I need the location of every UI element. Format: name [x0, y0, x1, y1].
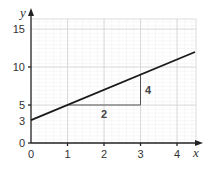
slope-chart: 0 1 2 3 4 0 3 5 10 15 y x 2 4: [0, 0, 208, 177]
x-tick-1: 1: [64, 148, 70, 160]
y-tick-10: 10: [13, 61, 25, 73]
run-label: 2: [101, 108, 107, 120]
x-tick-0: 0: [28, 148, 34, 160]
x-tick-labels: 0 1 2 3 4: [28, 148, 180, 160]
y-axis-label: y: [18, 5, 26, 20]
x-tick-4: 4: [174, 148, 180, 160]
y-tick-labels: 0 3 5 10 15: [13, 23, 25, 149]
grid: [31, 19, 196, 143]
x-tick-3: 3: [137, 148, 143, 160]
x-axis-label: x: [192, 145, 199, 160]
rise-label: 4: [145, 84, 152, 96]
y-tick-0: 0: [19, 137, 25, 149]
y-axis-arrow-icon: [28, 8, 34, 16]
y-tick-3: 3: [19, 115, 25, 127]
y-tick-15: 15: [13, 23, 25, 35]
x-tick-2: 2: [101, 148, 107, 160]
y-tick-5: 5: [19, 99, 25, 111]
